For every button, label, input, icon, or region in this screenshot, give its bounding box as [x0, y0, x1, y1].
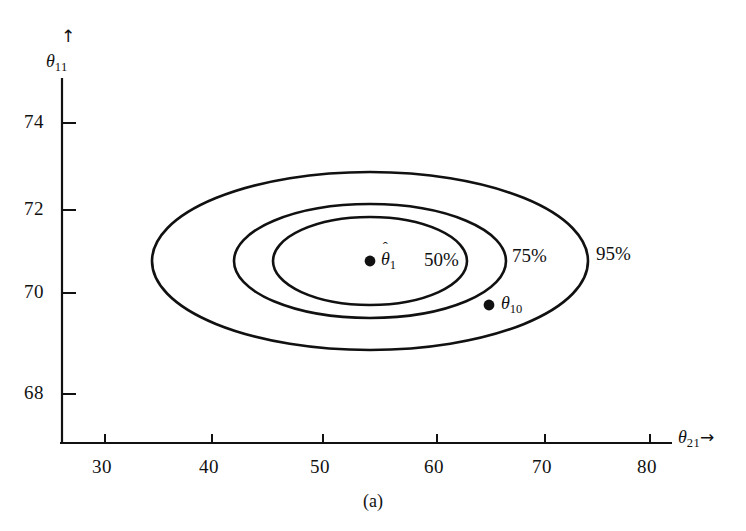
- x-tick-label-80: 80: [637, 457, 657, 476]
- estimate-point-label: ˆθ1: [381, 250, 396, 272]
- x-tick-label-50: 50: [310, 457, 330, 476]
- y-axis-title: θ11: [46, 52, 67, 74]
- x-tick-label-30: 30: [92, 457, 112, 476]
- plot-canvas: [0, 0, 746, 531]
- point-marker-theta-10: [484, 300, 495, 311]
- y-axis-arrow-icon: ↑: [61, 27, 75, 45]
- true-point-label: θ10: [501, 294, 522, 316]
- x-tick-label-60: 60: [424, 457, 444, 476]
- hat-accent-icon: ˆ: [383, 239, 388, 254]
- figure-container: ↑ θ11 θ21→ 304050607080 68707274 50% 75%…: [0, 0, 746, 531]
- x-axis-title: θ21→: [678, 428, 714, 450]
- x-tick-label-40: 40: [199, 457, 219, 476]
- y-tick-label-72: 72: [24, 199, 44, 218]
- contour-label-95: 95%: [596, 244, 631, 263]
- y-tick-label-70: 70: [24, 282, 44, 301]
- figure-caption: (a): [363, 492, 383, 510]
- contour-label-50: 50%: [424, 250, 459, 269]
- contour-label-75: 75%: [512, 246, 547, 265]
- point-marker-theta-hat-1: [365, 256, 376, 267]
- y-tick-label-68: 68: [24, 383, 44, 402]
- x-tick-label-70: 70: [532, 457, 552, 476]
- y-tick-label-74: 74: [24, 112, 44, 131]
